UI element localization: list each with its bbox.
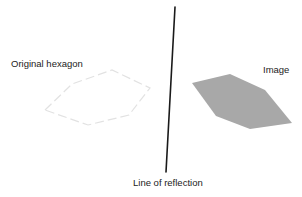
original-hexagon-label: Original hexagon [11,58,83,69]
line-of-reflection [166,7,175,172]
line-of-reflection-label: Line of reflection [133,177,203,188]
reflection-diagram: Original hexagon Image Line of reflectio… [0,0,302,197]
original-hexagon [45,70,150,125]
image-label: Image [263,64,289,75]
image-hexagon [192,74,292,129]
diagram-svg: Original hexagon Image Line of reflectio… [0,0,302,197]
